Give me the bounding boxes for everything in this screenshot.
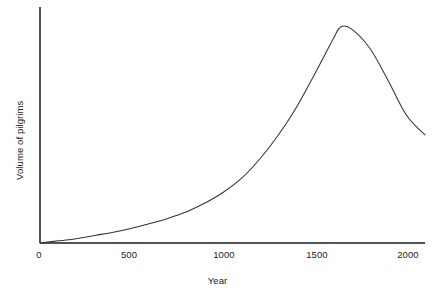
axes-group xyxy=(40,7,425,243)
x-axis-title: Year xyxy=(0,275,435,286)
x-tick-label-1000: 1000 xyxy=(204,249,244,260)
line-series-volume-of-pilgrims xyxy=(40,26,425,243)
data-series-group xyxy=(40,26,425,243)
x-tick-label-500: 500 xyxy=(109,249,149,260)
x-tick-label-0: 0 xyxy=(19,249,59,260)
x-tick-label-2000: 2000 xyxy=(388,249,428,260)
y-axis-title: Volume of pilgrims xyxy=(14,40,25,180)
chart-figure: 0 500 1000 1500 2000 Year Volume of pilg… xyxy=(0,0,435,295)
x-tick-label-1500: 1500 xyxy=(297,249,337,260)
